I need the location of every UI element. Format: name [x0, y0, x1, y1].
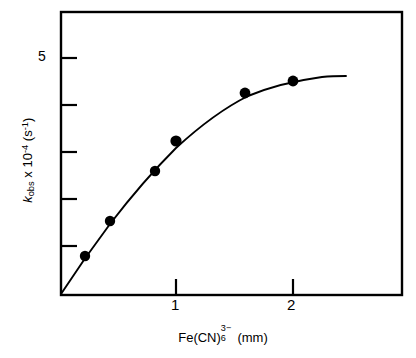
x-axis-label-subscript: 6 — [221, 334, 226, 343]
plot-frame — [61, 12, 402, 295]
x-axis-label-superscript: 3− — [221, 324, 231, 333]
figure-container: 5 1 2 kobs x 10-4 (s-1) Fe(CN)3−6 (mm) — [0, 0, 416, 358]
data-point — [150, 166, 160, 176]
data-point — [170, 135, 181, 146]
x-axis-tick-label-2: 2 — [287, 296, 295, 313]
y-axis-label-multiplier: x 10 — [20, 153, 35, 181]
x-axis-label-charge-stack: 3−6 — [221, 329, 230, 342]
y-axis-label-symbol: k — [20, 196, 35, 203]
y-axis-label-exponent: -4 — [20, 145, 30, 153]
x-axis-label-unit: (mm) — [237, 330, 267, 345]
y-axis-label-unit-open: (s — [20, 130, 35, 144]
y-axis-tick-label-5: 5 — [38, 48, 46, 64]
x-axis-label-species: Fe(CN) — [178, 330, 221, 345]
data-point — [80, 251, 90, 261]
x-axis-label: Fe(CN)3−6 (mm) — [108, 329, 338, 345]
data-point — [105, 216, 115, 226]
plot-canvas — [0, 0, 416, 358]
data-point — [240, 88, 251, 99]
data-points — [80, 76, 299, 262]
x-axis-ticks — [176, 279, 293, 295]
y-axis-label-subscript: obs — [26, 181, 36, 196]
y-axis-label: kobs x 10-4 (s-1) — [20, 80, 37, 240]
x-axis-tick-label-1: 1 — [171, 296, 179, 313]
y-axis-label-unit-close: ) — [20, 118, 35, 122]
data-point — [288, 76, 299, 87]
y-axis-ticks — [61, 58, 77, 246]
fit-curve — [61, 76, 346, 294]
y-axis-label-unit-exponent: -1 — [20, 122, 30, 130]
